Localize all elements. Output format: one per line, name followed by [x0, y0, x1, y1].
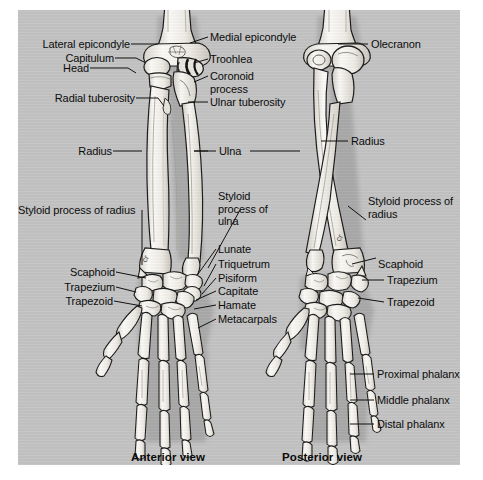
label-distal-phalanx: Distal phalanx [377, 418, 445, 431]
label-head: Head [24, 62, 89, 75]
label-radius-right: Radius [351, 135, 385, 148]
label-trochlea: Troohlea [210, 53, 252, 66]
humerus-shaft-anterior [158, 10, 197, 46]
label-ulnar-tuberosity: Ulnar tuberosity [210, 96, 285, 109]
humerus-shaft-posterior [318, 10, 357, 46]
label-ulna: Ulna [219, 145, 241, 158]
label-lateral-epicondyle: Lateral epicondyle [24, 38, 130, 51]
label-middle-phalanx: Middle phalanx [377, 394, 450, 407]
radial-head-posterior [307, 50, 331, 70]
label-triquetrum: Triquetrum [218, 258, 270, 271]
label-trapezium-left: Trapezium [24, 281, 115, 294]
label-radius-left: Radius [24, 145, 112, 158]
label-radial-tuberosity: Radial tuberosity [24, 92, 135, 105]
label-coronoid-process: Coronoid process [210, 70, 274, 95]
anatomy-figure-panel: cr [18, 10, 460, 465]
label-capitate: Capitate [218, 285, 258, 298]
caption-anterior-view: Anterior view [131, 451, 205, 463]
label-lunate: Lunate [218, 243, 251, 256]
label-proximal-phalanx: Proximal phalanx [377, 368, 460, 381]
label-styloid-process-of-ulna: Styloid process of ulna [218, 190, 274, 228]
label-olecranon: Olecranon [371, 38, 421, 51]
label-trapezoid-left: Trapezoid [24, 295, 113, 308]
label-scaphoid-left: Scaphoid [24, 266, 115, 279]
label-scaphoid-right: Scaphoid [378, 258, 423, 271]
caption-posterior-view: Posterior view [282, 451, 362, 463]
label-metacarpals: Metacarpals [218, 313, 277, 326]
anterior-view-bones: cr [96, 10, 214, 465]
label-pisiform: Pisiform [218, 272, 257, 285]
posterior-view-bones: cr [266, 10, 381, 465]
label-trapezoid-right: Trapezoid [387, 296, 435, 309]
label-trapezium-right: Trapezium [387, 274, 438, 287]
label-styloid-process-of-radius-left: Styloid process of radius [18, 204, 114, 217]
label-hamate: Hamate [218, 299, 256, 312]
label-medial-epicondyle: Medial epicondyle [210, 31, 296, 44]
label-styloid-process-of-radius-right: Styloid process of radius [368, 195, 460, 220]
